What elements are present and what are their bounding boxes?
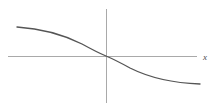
figure-container: x xyxy=(0,0,217,111)
x-axis-label: x xyxy=(202,52,207,62)
sigmoid-plot-svg: x xyxy=(0,0,217,111)
